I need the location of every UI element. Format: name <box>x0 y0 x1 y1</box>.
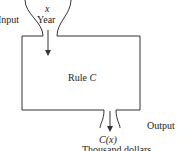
input-arrowhead <box>45 50 51 56</box>
rule-name: C <box>89 72 96 83</box>
box-bottom-right <box>116 110 140 128</box>
input-label: Input <box>0 14 19 25</box>
output-arrowhead <box>107 126 113 132</box>
rule-label: Rule C <box>68 72 96 83</box>
box-bottom-left <box>22 110 104 128</box>
output-label: Output <box>147 120 175 131</box>
input-unit: Year <box>37 14 55 25</box>
input-variable: x <box>45 3 49 14</box>
box-left-edge <box>22 36 43 110</box>
output-unit: Thousand dollars <box>82 144 151 151</box>
input-funnel-right <box>57 0 71 36</box>
